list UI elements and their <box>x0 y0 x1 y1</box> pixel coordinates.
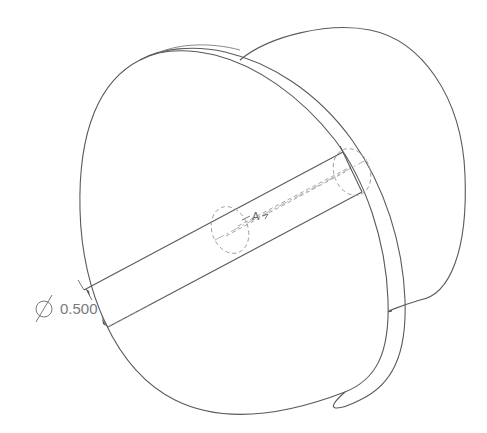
dimension-value: 0.500 <box>60 300 98 317</box>
diameter-symbol-icon <box>36 295 52 322</box>
isometric-part-drawing: A 0.500 <box>0 0 487 433</box>
shaft <box>84 143 377 327</box>
diameter-dimension: 0.500 <box>36 280 108 327</box>
disc-front-face <box>80 51 388 415</box>
drawing-canvas: A 0.500 <box>0 0 487 433</box>
disc-rim <box>140 45 405 408</box>
svg-text:A: A <box>252 210 260 222</box>
